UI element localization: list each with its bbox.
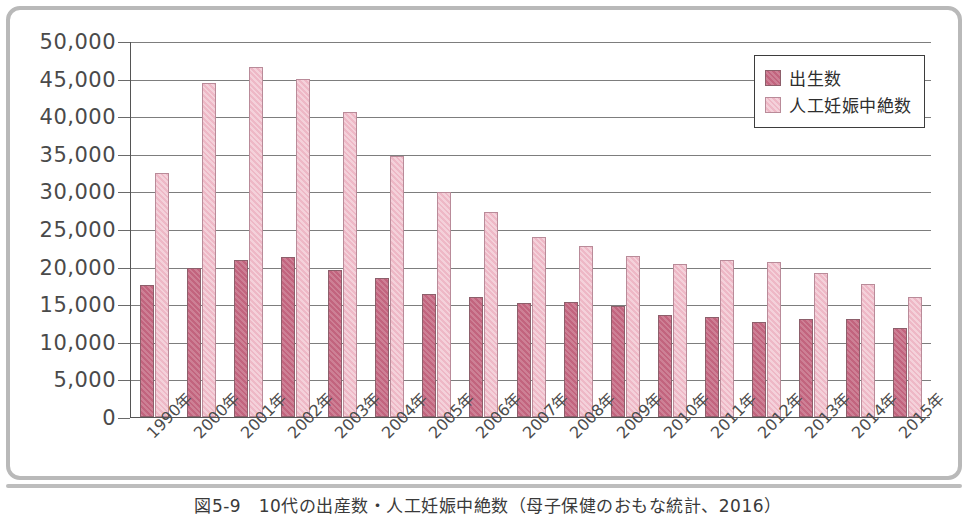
legend-swatch-abortions-icon	[765, 97, 781, 113]
bar-abortions	[720, 260, 734, 417]
bar-abortions	[390, 156, 404, 417]
y-tick-label: 35,000	[20, 143, 116, 167]
y-tick-mark	[118, 418, 130, 419]
figure-bottom-rule	[6, 484, 962, 488]
bar-abortions	[296, 79, 310, 417]
y-tick-label: 45,000	[20, 68, 116, 92]
bar-births	[140, 285, 154, 417]
bar-group	[564, 41, 593, 417]
bar-abortions	[249, 67, 263, 417]
y-tick-label: 5,000	[20, 368, 116, 392]
bar-group	[328, 41, 357, 417]
y-tick-label: 10,000	[20, 331, 116, 355]
bar-group	[281, 41, 310, 417]
y-tick-mark	[118, 343, 130, 344]
y-tick-mark	[118, 230, 130, 231]
bar-abortions	[814, 273, 828, 417]
y-tick-label: 50,000	[20, 30, 116, 54]
y-tick-mark	[118, 117, 130, 118]
bar-group	[469, 41, 498, 417]
bar-group	[422, 41, 451, 417]
y-tick-label: 0	[20, 406, 116, 430]
y-tick-mark	[118, 42, 130, 43]
bar-group	[187, 41, 216, 417]
bar-group	[517, 41, 546, 417]
legend-swatch-births-icon	[765, 70, 781, 86]
bar-group	[375, 41, 404, 417]
bar-abortions	[343, 112, 357, 417]
bar-abortions	[437, 192, 451, 417]
bar-births	[234, 260, 248, 417]
bar-abortions	[626, 256, 640, 417]
bar-group	[140, 41, 169, 417]
bar-abortions	[202, 83, 216, 417]
y-tick-label: 15,000	[20, 293, 116, 317]
legend-item-abortions: 人工妊娠中絶数	[765, 92, 912, 117]
y-tick-label: 30,000	[20, 180, 116, 204]
y-tick-mark	[118, 192, 130, 193]
bar-group	[705, 41, 734, 417]
legend-item-births: 出生数	[765, 65, 912, 90]
y-tick-mark	[118, 305, 130, 306]
y-tick-mark	[118, 268, 130, 269]
y-tick-label: 40,000	[20, 105, 116, 129]
legend-label-births: 出生数	[789, 65, 842, 90]
chart-legend: 出生数 人工妊娠中絶数	[754, 55, 925, 128]
figure-caption: 図5-9 10代の出産数・人工妊娠中絶数（母子保健のおもな統計、2016）	[0, 492, 976, 517]
bar-abortions	[673, 264, 687, 417]
bar-abortions	[532, 237, 546, 417]
bar-group	[658, 41, 687, 417]
bar-abortions	[484, 212, 498, 417]
y-tick-mark	[118, 80, 130, 81]
bar-abortions	[155, 173, 169, 417]
y-tick-label: 25,000	[20, 218, 116, 242]
bar-births	[281, 257, 295, 417]
bar-abortions	[579, 246, 593, 417]
y-tick-mark	[118, 380, 130, 381]
bar-abortions	[767, 262, 781, 417]
bar-group	[611, 41, 640, 417]
bar-group	[234, 41, 263, 417]
y-tick-mark	[118, 155, 130, 156]
y-tick-label: 20,000	[20, 256, 116, 280]
legend-label-abortions: 人工妊娠中絶数	[789, 92, 912, 117]
